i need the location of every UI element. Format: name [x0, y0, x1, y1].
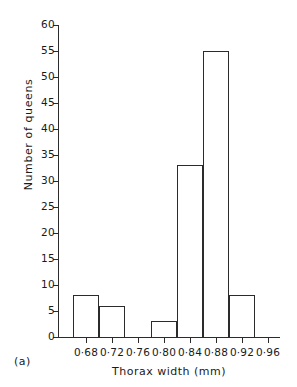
y-tick-label: 15	[41, 252, 55, 265]
y-tick-label: 50	[41, 70, 55, 83]
y-tick-label: 60	[41, 18, 55, 31]
histogram-figure: Number of queens 05101520253035404550556…	[0, 0, 297, 387]
x-tick-label: 0·96	[256, 346, 280, 358]
y-axis-title: Number of queens	[22, 55, 35, 215]
histogram-bar	[73, 295, 99, 338]
histogram-bar	[229, 295, 255, 338]
x-tick-label: 0·92	[230, 346, 254, 358]
y-tick-label: 5	[48, 304, 55, 317]
x-tick-mark	[190, 338, 191, 343]
y-tick-label: 10	[41, 278, 55, 291]
x-tick-mark	[164, 338, 165, 343]
histogram-bar	[203, 51, 229, 338]
x-tick-label: 0·88	[204, 346, 228, 358]
x-tick-mark	[268, 338, 269, 343]
plot-area: 051015202530354045505560 0·680·720·760·8…	[58, 25, 280, 337]
y-tick-label: 30	[41, 174, 55, 187]
y-tick-label: 0	[48, 330, 55, 343]
panel-label: (a)	[14, 355, 31, 368]
histogram-bar	[151, 321, 177, 338]
y-tick-label: 25	[41, 200, 55, 213]
y-axis-line	[58, 25, 59, 338]
y-tick-label: 55	[41, 44, 55, 57]
x-tick-label: 0·84	[178, 346, 202, 358]
y-tick-label: 40	[41, 122, 55, 135]
y-tick-label: 35	[41, 148, 55, 161]
x-tick-mark	[138, 338, 139, 343]
x-tick-mark	[112, 338, 113, 343]
x-tick-mark	[86, 338, 87, 343]
y-tick-label: 20	[41, 226, 55, 239]
histogram-bar	[177, 165, 203, 338]
x-tick-label: 0·72	[100, 346, 124, 358]
x-tick-label: 0·76	[126, 346, 150, 358]
y-tick-label: 45	[41, 96, 55, 109]
x-tick-mark	[216, 338, 217, 343]
x-tick-mark	[242, 338, 243, 343]
x-tick-label: 0·80	[152, 346, 176, 358]
x-tick-label: 0·68	[74, 346, 98, 358]
x-axis-title: Thorax width (mm)	[58, 365, 280, 378]
histogram-bar	[99, 306, 125, 338]
